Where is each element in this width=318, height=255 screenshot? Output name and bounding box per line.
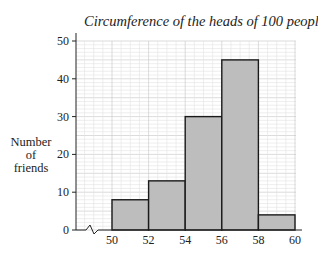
x-tick-label: 52 (143, 233, 155, 247)
histogram-bar (185, 117, 222, 230)
x-tick-label: 58 (252, 233, 264, 247)
y-tick-label: 30 (57, 110, 69, 124)
x-tick-label: 54 (179, 233, 191, 247)
y-tick-label: 20 (57, 147, 69, 161)
histogram-bar (149, 181, 186, 230)
y-tick-label: 40 (57, 72, 69, 86)
histogram-chart: 01020304050505254565860 (0, 0, 318, 255)
histogram-bar (112, 200, 149, 230)
x-tick-label: 60 (289, 233, 301, 247)
y-tick-label: 50 (57, 34, 69, 48)
x-tick-label: 56 (216, 233, 228, 247)
histogram-bar (222, 60, 259, 230)
y-tick-label: 10 (57, 185, 69, 199)
histogram-bar (258, 215, 295, 230)
x-tick-label: 50 (106, 233, 118, 247)
y-tick-label: 0 (63, 223, 69, 237)
